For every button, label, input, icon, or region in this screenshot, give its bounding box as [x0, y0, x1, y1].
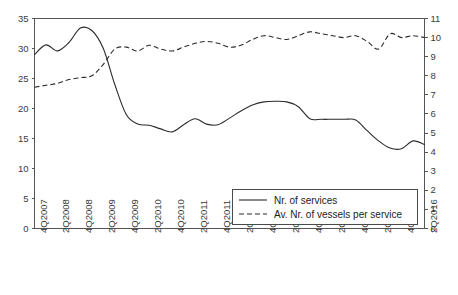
- y-axis-right-tick-2: 2: [431, 185, 436, 195]
- x-axis-tick-2Q2016: 2Q2016: [429, 199, 439, 233]
- series-line-nr-of-services: [35, 27, 425, 149]
- y-axis-left-tick-15: 15: [0, 134, 29, 144]
- legend-item-0: Nr. of services: [238, 193, 410, 207]
- y-axis-right-tick-11: 11: [431, 14, 441, 24]
- x-axis-tick-2Q2010: 2Q2010: [153, 199, 163, 233]
- y-axis-right-tick-6: 6: [431, 109, 436, 119]
- y-axis-left-tick-20: 20: [0, 104, 29, 114]
- x-axis-tick-2Q2009: 2Q2009: [107, 199, 117, 233]
- legend-label-services: Nr. of services: [274, 195, 337, 206]
- y-axis-right-tick-9: 9: [431, 52, 436, 62]
- y-axis-right-tick-5: 5: [431, 128, 436, 138]
- series-line-vessels-per-service: [35, 32, 425, 87]
- chart-series: [35, 27, 425, 149]
- legend-label-vessels-per-service: Av. Nr. of vessels per service: [274, 209, 402, 220]
- legend-solid-line-icon: [238, 195, 268, 205]
- y-axis-left-tick-10: 10: [0, 164, 29, 174]
- y-axis-right-tick-8: 8: [431, 71, 436, 81]
- y-axis-right-tick-3: 3: [431, 166, 436, 176]
- x-axis-tick-2Q2008: 2Q2008: [61, 199, 71, 233]
- y-axis-left-tick-5: 5: [0, 194, 29, 204]
- x-axis-tick-2Q2011: 2Q2011: [199, 199, 209, 232]
- x-axis-tick-4Q2011: 4Q2011: [222, 199, 232, 232]
- y-axis-left-tick-35: 35: [0, 14, 29, 24]
- x-axis-tick-4Q2010: 4Q2010: [176, 199, 186, 233]
- x-axis-tick-4Q2009: 4Q2009: [130, 199, 140, 233]
- y-axis-left-tick-25: 25: [0, 74, 29, 84]
- chart-canvas: [0, 0, 458, 295]
- y-axis-left-tick-0: 0: [0, 224, 29, 234]
- y-axis-right-tick-7: 7: [431, 90, 436, 100]
- y-axis-left-tick-30: 30: [0, 44, 29, 54]
- legend-item-1: Av. Nr. of vessels per service: [238, 207, 410, 221]
- y-axis-right-tick-4: 4: [431, 147, 436, 157]
- y-axis-right-tick-10: 10: [431, 33, 442, 43]
- x-axis-tick-4Q2008: 4Q2008: [84, 199, 94, 233]
- x-axis-tick-4Q2007: 4Q2007: [39, 199, 49, 233]
- chart-legend: Nr. of services Av. Nr. of vessels per s…: [232, 189, 418, 225]
- chart-container: 05101520253035 01234567891011 4Q20072Q20…: [0, 0, 458, 295]
- legend-dashed-line-icon: [238, 209, 268, 219]
